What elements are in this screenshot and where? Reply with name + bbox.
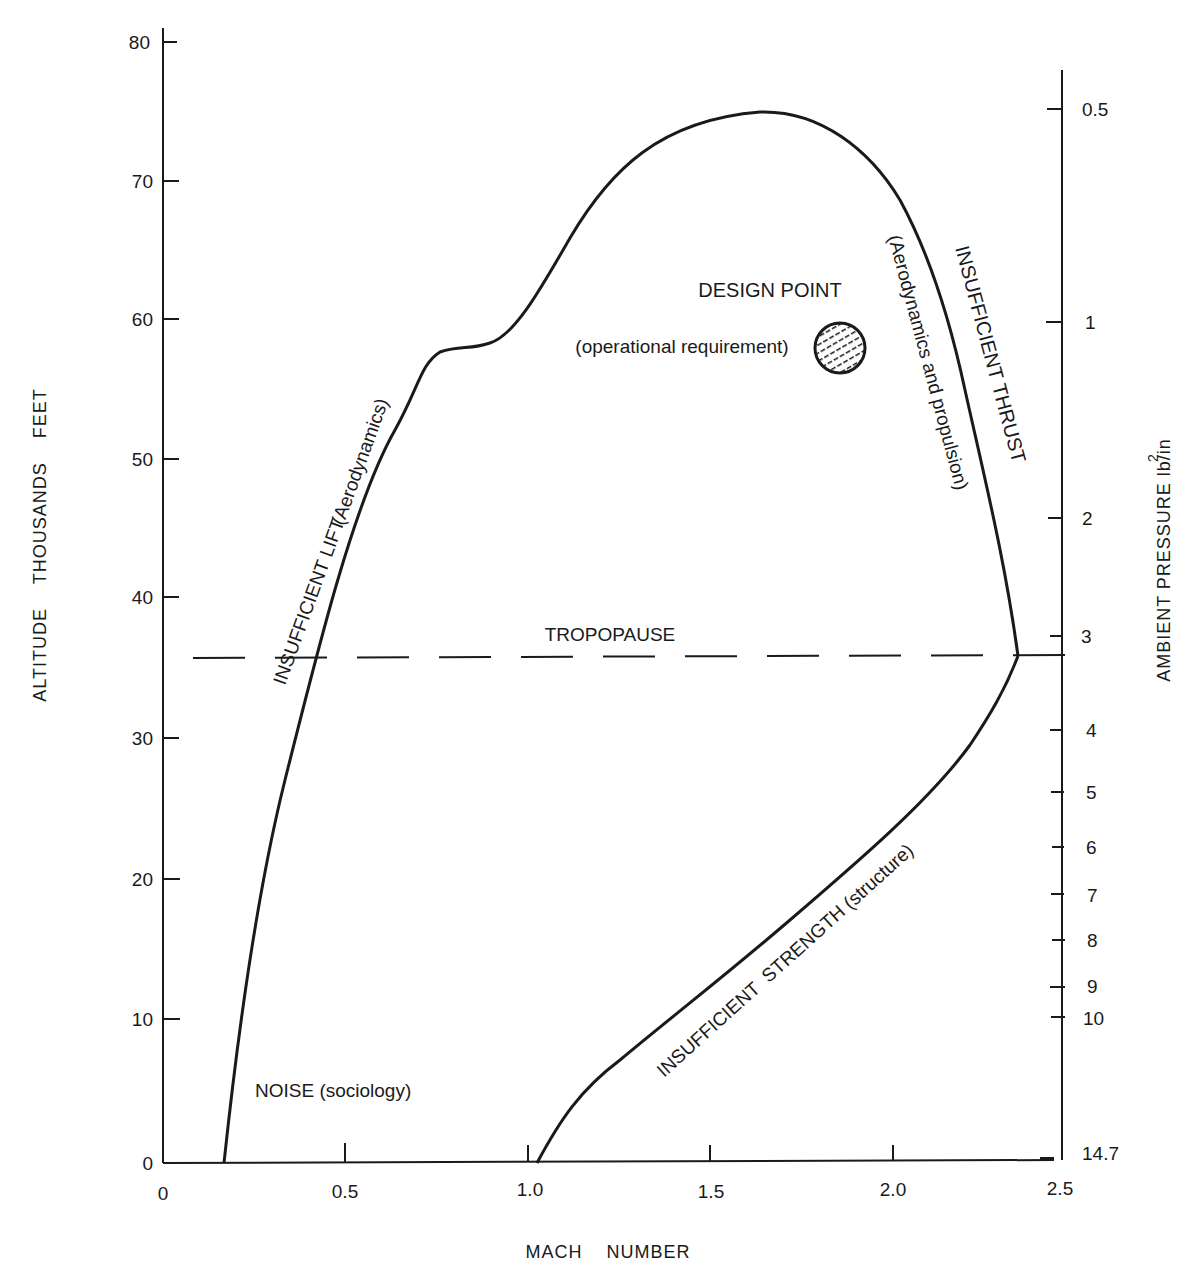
y2-tick-label: 4 [1086, 720, 1097, 741]
y2-axis-pressure: 0.5 1 2 3 4 5 6 7 8 9 10 14.7 AMBIENT PR… [1046, 70, 1174, 1164]
insufficient-strength-annotation: INSUFFICIENT STRENGTH (structure) [653, 840, 918, 1081]
x-tick-label: 1.0 [517, 1179, 543, 1200]
insufficient-strength-label: INSUFFICIENT STRENGTH (structure) [653, 840, 918, 1081]
y-tick-label: 40 [132, 587, 153, 608]
y2-tick-label: 2 [1082, 508, 1093, 529]
insufficient-thrust-label: INSUFFICIENT THRUST [951, 243, 1030, 465]
y-tick-label: 70 [132, 171, 153, 192]
x-axis-title: MACH NUMBER [525, 1242, 690, 1262]
x-axis-mach: 0 0.5 1.0 1.5 2.0 2.5 MACH NUMBER [158, 1143, 1074, 1262]
y-axis-ticks [163, 42, 180, 1019]
y2-tick-label: 3 [1081, 626, 1092, 647]
y-tick-label: 60 [132, 309, 153, 330]
y-tick-label: 30 [132, 728, 153, 749]
y2-tick-label: 7 [1087, 885, 1098, 906]
svg-text:AMBIENT PRESSURE lb/in: AMBIENT PRESSURE lb/in [1154, 438, 1174, 682]
y2-tick-label: 0.5 [1082, 99, 1108, 120]
y-axis-tick-labels: 0 10 20 30 40 50 60 70 80 [129, 32, 153, 1174]
x-tick-label: 1.5 [698, 1181, 724, 1202]
y2-axis-title: AMBIENT PRESSURE lb/in 2 [1145, 438, 1174, 682]
noise-label: NOISE (sociology) [255, 1080, 411, 1101]
insufficient-thrust-annotation: INSUFFICIENT THRUST [951, 243, 1030, 465]
y-tick-label: 20 [132, 869, 153, 890]
tropopause-line [193, 655, 1068, 658]
y-tick-label: 0 [142, 1153, 153, 1174]
x-tick-label: 2.5 [1047, 1178, 1073, 1199]
design-point-label: DESIGN POINT [698, 279, 841, 301]
insufficient-lift-label: INSUFFICIENT LIFT [269, 515, 349, 687]
y2-tick-label: 9 [1087, 976, 1098, 997]
design-point-marker [815, 323, 865, 373]
y-axis-altitude: 0 10 20 30 40 50 60 70 80 ALTITUDE THOUS… [30, 28, 180, 1174]
x-tick-label: 0.5 [332, 1181, 358, 1202]
y2-tick-label: 8 [1087, 930, 1098, 951]
operational-requirement-label: (operational requirement) [575, 336, 788, 357]
y2-tick-label: 6 [1086, 837, 1097, 858]
flight-envelope-chart: 0 10 20 30 40 50 60 70 80 ALTITUDE THOUS… [0, 0, 1196, 1270]
y2-axis-tick-labels: 0.5 1 2 3 4 5 6 7 8 9 10 14.7 [1081, 99, 1119, 1164]
y2-tick-label: 14.7 [1082, 1143, 1119, 1164]
y2-tick-label: 5 [1086, 782, 1097, 803]
y2-tick-label: 1 [1085, 312, 1096, 333]
x-axis-tick-labels: 0 0.5 1.0 1.5 2.0 2.5 [158, 1178, 1074, 1204]
tropopause-label: TROPOPAUSE [545, 624, 676, 645]
y-tick-label: 80 [129, 32, 150, 53]
y2-axis-title-superscript: 2 [1145, 453, 1161, 462]
strength-boundary-curve [537, 656, 1018, 1163]
x-tick-label: 2.0 [880, 1179, 906, 1200]
y-tick-label: 50 [132, 449, 153, 470]
y2-tick-label: 10 [1083, 1008, 1104, 1029]
y-axis-title: ALTITUDE THOUSANDS FEET [30, 388, 50, 701]
x-tick-label: 0 [158, 1183, 169, 1204]
insufficient-lift-annotation: INSUFFICIENT LIFT (Aerodynamics) [269, 395, 392, 687]
y-tick-label: 10 [132, 1009, 153, 1030]
